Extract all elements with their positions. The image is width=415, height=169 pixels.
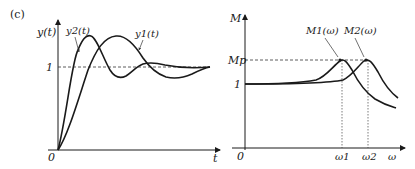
peak-tick-label: Mp — [227, 54, 246, 67]
left-ref-tick: 1 — [46, 61, 53, 74]
curve-m2 — [245, 60, 398, 98]
omega2-tick: ω2 — [362, 151, 377, 162]
right-y-label: M — [229, 12, 242, 25]
left-x-label: t — [213, 152, 218, 165]
pointer-m1 — [325, 38, 338, 57]
label-m2: M2(ω) — [343, 25, 377, 36]
pointer-y1 — [139, 40, 143, 50]
pointer-y2 — [75, 37, 79, 52]
pointer-m2 — [355, 38, 364, 57]
panel-label: (c) — [10, 8, 25, 21]
figure-canvas: (c) y(t) t 0 1 y2(t) y1(t) M Mp 1 0 ω1 ω… — [0, 0, 415, 169]
label-m1: M1(ω) — [305, 25, 339, 36]
curve-y1 — [58, 36, 210, 150]
right-x-label: ω — [388, 151, 396, 162]
right-ref-tick: 1 — [234, 78, 241, 91]
label-y2: y2(t) — [65, 25, 90, 36]
peak-marker-m1 — [338, 58, 341, 61]
peak-marker-m2 — [364, 58, 367, 61]
right-plot: M Mp 1 0 ω1 ω2 ω M1(ω) M2(ω) — [227, 12, 405, 163]
label-y1: y1(t) — [134, 28, 159, 39]
left-origin-label: 0 — [48, 151, 55, 164]
omega1-tick: ω1 — [335, 151, 350, 162]
right-origin-label: 0 — [237, 150, 244, 163]
left-plot: y(t) t 0 1 y2(t) y1(t) — [36, 20, 220, 165]
left-y-label: y(t) — [36, 26, 56, 39]
